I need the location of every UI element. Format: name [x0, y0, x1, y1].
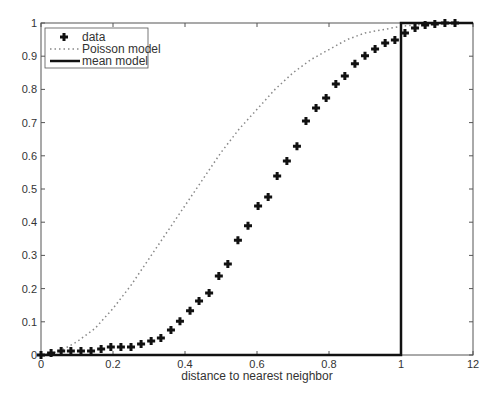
y-tick-label: 0.2 [22, 283, 37, 295]
y-tick-label: 0.3 [22, 249, 37, 261]
y-tick-label: 0.4 [22, 216, 37, 228]
x-tick-label: 1 [398, 358, 404, 370]
plot-area [41, 23, 473, 355]
x-tick-label: 0 [38, 358, 44, 370]
y-tick-label: 0 [31, 349, 37, 361]
y-tick-label: 0.1 [22, 316, 37, 328]
legend: data Poisson model mean model [45, 28, 161, 68]
x-tick-label: 0.2 [105, 358, 120, 370]
y-tick-label: 0.8 [22, 83, 37, 95]
legend-label-mean: mean model [82, 54, 148, 68]
chart: 00.10.20.30.40.50.60.70.80.91 00.20.40.6… [0, 0, 500, 399]
y-tick-label: 0.9 [22, 50, 37, 62]
y-tick-label: 0.7 [22, 117, 37, 129]
y-tick-label: 0.5 [22, 183, 37, 195]
x-tick-label: 12 [467, 358, 479, 370]
y-tick-label: 0.6 [22, 150, 37, 162]
y-tick-label: 1 [31, 17, 37, 29]
x-axis-label: distance to nearest neighbor [181, 369, 332, 383]
